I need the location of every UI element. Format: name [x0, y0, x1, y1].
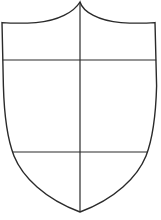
- shield-figure: Heraldic shield outline divided by a cro…: [0, 0, 161, 220]
- shield-drawing: Heraldic shield outline divided by a cro…: [0, 0, 161, 220]
